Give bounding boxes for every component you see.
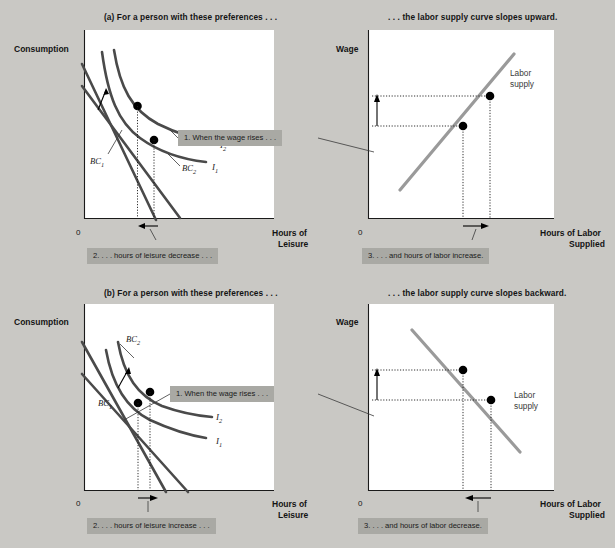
panel-b: (b) For a person with these preferences … [0, 280, 615, 548]
labor-supply-label-line2: supply [514, 401, 539, 411]
panel-b-left-x-axis-label-2: Leisure [278, 510, 308, 520]
labor-increase-arrow-head [481, 223, 489, 229]
panel-a-header-right: . . . the labor supply curve slopes upwa… [388, 12, 557, 22]
labor-callout-leader [472, 229, 476, 240]
panel-b-header-left: (b) For a person with these preferences … [104, 288, 278, 298]
equilibrium-point-low-wage [487, 396, 496, 405]
connector-right [318, 394, 374, 416]
leisure-change-arrow-head [150, 495, 158, 501]
panel-b-right-y-axis-label: Wage [336, 317, 358, 327]
panel-b-callout-2: 2. . . . hours of leisure increase . . . [87, 518, 216, 534]
panel-a-left-origin-label: 0 [76, 228, 80, 237]
labor-supply-label-line1: Labor [514, 390, 535, 400]
panel-b-left-y-axis-label: Consumption [14, 317, 69, 327]
leisure-callout-leader [150, 229, 156, 240]
panel-a-callout-2: 2. . . . hours of leisure decrease . . . [87, 248, 218, 264]
panel-a-left-x-axis-label-2: Leisure [278, 239, 308, 249]
equilibrium-point-high-wage [459, 366, 468, 375]
panel-a-left-x-axis-label-1: Hours of [272, 228, 307, 238]
connector-right [318, 138, 374, 152]
panel-b-header-right: . . . the labor supply curve slopes back… [388, 288, 566, 298]
equilibrium-point-low-wage [459, 122, 468, 131]
panel-a-right-x-axis-label-2: Supplied [569, 239, 605, 249]
panel-a: (a) For a person with these preferences … [0, 0, 615, 280]
labor-decrease-arrow-head [465, 495, 473, 501]
panel-a-right-chart: Labor supply [368, 30, 554, 230]
panel-a-right-y-axis-label: Wage [336, 44, 358, 54]
equilibrium-point-high-wage [486, 92, 495, 101]
panel-b-callout-1: 1. When the wage rises . . . [170, 386, 274, 402]
panel-b-right-origin-label: 0 [358, 499, 362, 508]
panel-a-right-origin-label: 0 [358, 228, 362, 237]
panel-b-left-origin-label: 0 [76, 499, 80, 508]
panel-b-right-x-axis-label-2: Supplied [569, 510, 605, 520]
panel-a-header-left: (a) For a person with these preferences … [104, 12, 277, 22]
panel-b-left-x-axis-label-1: Hours of [272, 499, 307, 509]
labor-supply-label-line1: Labor [510, 68, 531, 78]
panel-a-callout-1: 1. When the wage rises . . . [178, 130, 282, 146]
leisure-change-arrow-head [138, 223, 145, 229]
panel-b-right-chart: Labor supply [368, 304, 554, 504]
panel-a-left-y-axis-label: Consumption [14, 44, 69, 54]
panel-b-callout-3: 3. . . . and hours of labor decrease. [358, 518, 488, 534]
panel-a-callout-3: 3. . . . and hours of labor increase. [362, 248, 489, 264]
labor-supply-label-line2: supply [510, 79, 535, 89]
